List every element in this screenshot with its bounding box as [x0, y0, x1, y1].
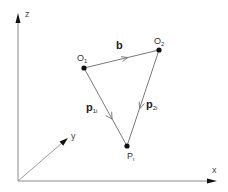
vector-p1i-label: p1i	[86, 102, 97, 114]
vector-b-label: b	[116, 40, 123, 51]
vector-p2i	[127, 50, 159, 146]
z-axis-label: z	[25, 10, 30, 19]
vector-p2i-label: p2i	[146, 99, 157, 111]
y-axis	[18, 138, 68, 181]
x-axis-arrowhead-icon	[207, 179, 217, 184]
diagram-svg	[0, 0, 228, 192]
vector-b	[84, 50, 159, 68]
point-o2-label: O2	[154, 37, 164, 47]
point-o2-icon	[156, 47, 161, 52]
y-axis-label: y	[71, 132, 76, 141]
x-axis-label: x	[212, 166, 217, 175]
x-axis	[18, 179, 217, 184]
point-o1-icon	[81, 65, 86, 70]
point-pi-label: Pi	[127, 152, 134, 162]
coordinate-diagram: z x y O1 O2 Pi b p1i p2i	[0, 0, 228, 192]
point-o1-label: O1	[77, 54, 87, 64]
point-pi-icon	[124, 143, 129, 148]
z-axis	[16, 13, 21, 181]
z-axis-arrowhead-icon	[16, 13, 21, 23]
